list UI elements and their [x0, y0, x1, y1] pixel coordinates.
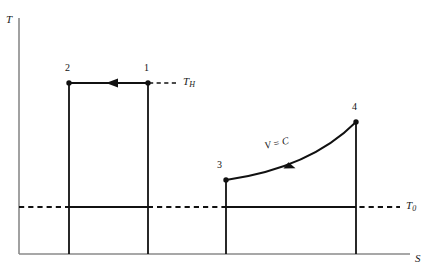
t-axis-label: T [6, 13, 12, 25]
state-point-2-dot [66, 80, 71, 85]
constant-volume-curve-3-to-4 [226, 122, 356, 180]
state-point-2-label: 2 [65, 62, 70, 73]
th-label: TH [183, 75, 195, 89]
t0-label-subscript: 0 [412, 204, 416, 213]
state-point-1-label: 1 [144, 62, 149, 73]
s-axis-label: S [415, 252, 421, 264]
state-point-4-label: 4 [352, 101, 357, 112]
t0-label: T0 [406, 199, 416, 213]
diagram-canvas [0, 0, 433, 278]
arrowhead-left-isothermal [106, 79, 118, 88]
state-point-4-dot [353, 119, 358, 124]
state-point-3-label: 3 [217, 159, 222, 170]
th-label-subscript: H [189, 80, 195, 89]
state-point-3-dot [223, 177, 228, 182]
state-point-1-dot [145, 80, 150, 85]
ts-diagram-figure: T S TH T0 2 1 3 4 V = C [0, 0, 433, 278]
